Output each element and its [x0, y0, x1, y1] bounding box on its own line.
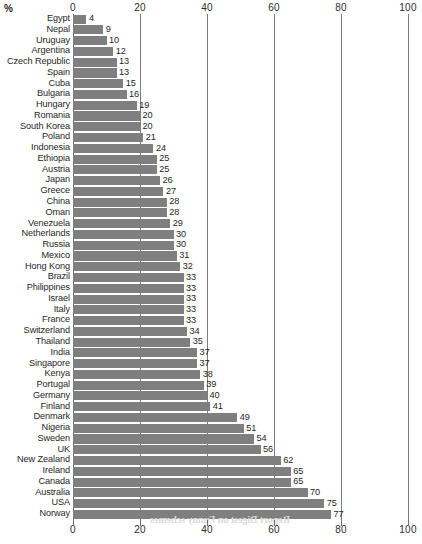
bar [73, 316, 184, 325]
top-tick-label-100: 100 [399, 2, 417, 13]
top-tick-label-20: 20 [134, 2, 146, 13]
bar [73, 25, 103, 34]
bar-value-label: 35 [193, 336, 203, 347]
bar [73, 68, 117, 77]
category-label: Oman [45, 207, 70, 218]
tickmark-80 [341, 520, 342, 526]
bar [73, 241, 174, 250]
bar [73, 251, 177, 260]
bar-value-label: 9 [106, 24, 111, 35]
category-label: Netherlands [22, 228, 70, 239]
bar-value-label: 39 [206, 379, 216, 390]
category-label: Singapore [29, 358, 70, 369]
category-label: Australia [35, 487, 70, 498]
bar-value-label: 20 [143, 121, 153, 132]
bar [73, 338, 190, 347]
bar [73, 413, 237, 422]
category-label: Italy [54, 304, 70, 315]
category-label: Thailand [36, 336, 70, 347]
bar-value-label: 28 [169, 207, 179, 218]
chart-row: Norway77 [0, 509, 422, 520]
bar-chart: % 020406080100 Egypt4Nepal9Uruguay10Arge… [0, 0, 422, 544]
bar-value-label: 32 [183, 261, 193, 272]
bar-value-label: 31 [179, 250, 189, 261]
bar [73, 478, 291, 487]
bar-value-label: 30 [176, 229, 186, 240]
bar [73, 133, 143, 142]
tickmark-0 [73, 520, 74, 526]
bar [73, 111, 140, 120]
category-label: Kenya [44, 368, 70, 379]
top-tick-label-80: 80 [335, 2, 347, 13]
bar [73, 79, 123, 88]
category-label: France [42, 314, 70, 325]
bar [73, 36, 107, 45]
tickmark-40 [207, 520, 208, 526]
bar-value-label: 51 [246, 423, 256, 434]
category-label: UK [57, 444, 70, 455]
category-label: Denmark [33, 411, 70, 422]
bar-value-label: 25 [159, 153, 169, 164]
category-label: Romania [34, 110, 70, 121]
bar-value-label: 33 [186, 304, 196, 315]
category-label: South Korea [20, 121, 70, 132]
bar-value-label: 38 [203, 369, 213, 380]
bar [73, 359, 197, 368]
category-label: Poland [42, 131, 70, 142]
bar [73, 176, 160, 185]
bar [73, 198, 167, 207]
tickmark-60 [274, 520, 275, 526]
bar-value-label: 62 [283, 455, 293, 466]
bar [73, 467, 291, 476]
bar [73, 445, 261, 454]
bar [73, 273, 184, 282]
bar [73, 230, 174, 239]
category-label: Switzerland [24, 325, 70, 336]
bar-value-label: 30 [176, 239, 186, 250]
category-label: Greece [40, 185, 70, 196]
bar-value-label: 65 [293, 466, 303, 477]
category-label: Nepal [46, 24, 70, 35]
bar [73, 15, 86, 24]
bar [73, 456, 281, 465]
bar-value-label: 34 [189, 326, 199, 337]
category-label: Brazil [48, 271, 70, 282]
category-label: Uruguay [36, 35, 70, 46]
category-label: Egypt [47, 13, 70, 24]
bar [73, 208, 167, 217]
category-label: Portugal [37, 379, 70, 390]
bar-value-label: 12 [116, 46, 126, 57]
bar [73, 295, 184, 304]
bar [73, 348, 197, 357]
category-label: Hong Kong [25, 261, 70, 272]
bar-value-label: 25 [159, 164, 169, 175]
category-label: Spain [47, 67, 70, 78]
bar-value-label: 19 [139, 100, 149, 111]
category-label: Philippines [27, 282, 70, 293]
bar-value-label: 16 [129, 89, 139, 100]
bar-value-label: 29 [173, 218, 183, 229]
bar [73, 165, 157, 174]
top-tick-label-40: 40 [201, 2, 213, 13]
category-label: Sweden [37, 433, 70, 444]
bar [73, 58, 117, 67]
category-label: USA [51, 497, 70, 508]
tickmark-20 [140, 520, 141, 526]
bar [73, 499, 324, 508]
bar-value-label: 75 [327, 498, 337, 509]
bar-value-label: 27 [166, 186, 176, 197]
category-label: New Zealand [17, 454, 70, 465]
bar-value-label: 33 [186, 272, 196, 283]
bar-value-label: 33 [186, 315, 196, 326]
category-label: Norway [39, 508, 70, 519]
bar [73, 187, 163, 196]
bar-value-label: 15 [126, 78, 136, 89]
category-label: Cuba [48, 78, 70, 89]
bar [73, 284, 184, 293]
bar [73, 262, 180, 271]
bar [73, 144, 153, 153]
bar [73, 122, 140, 131]
bottom-axis: 020406080100 [0, 524, 422, 538]
bar [73, 424, 244, 433]
bar-value-label: 33 [186, 293, 196, 304]
